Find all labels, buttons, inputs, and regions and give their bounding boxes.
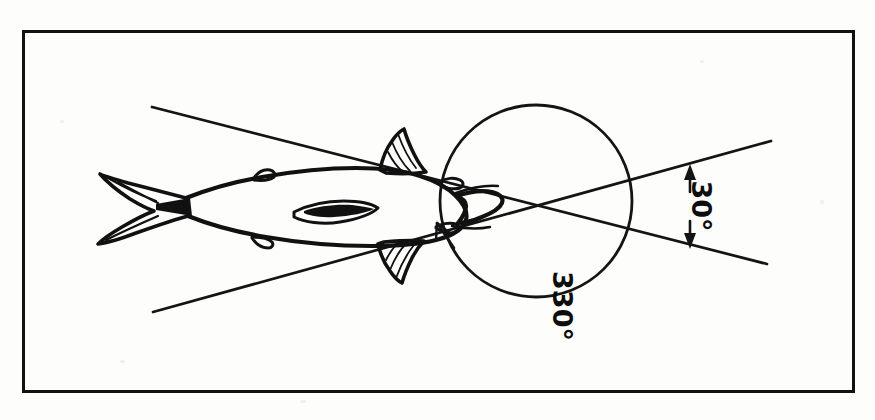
fish-drawing [98,129,503,283]
figure-canvas: 30° 330° [0,0,875,420]
figure-page: 30° 330° [0,0,875,420]
angle-label-30: 30° [686,180,717,231]
angle-span-arrowhead-top [684,164,696,180]
angle-label-330: 330° [547,271,578,341]
fish-ventral-nub [252,237,273,248]
fish-peduncle-shade [156,198,192,216]
fish-barbel-lower [452,226,490,228]
heading-arrow-head-left [436,223,437,240]
orientation-circle [440,105,632,297]
upper-sector-line [152,107,767,264]
